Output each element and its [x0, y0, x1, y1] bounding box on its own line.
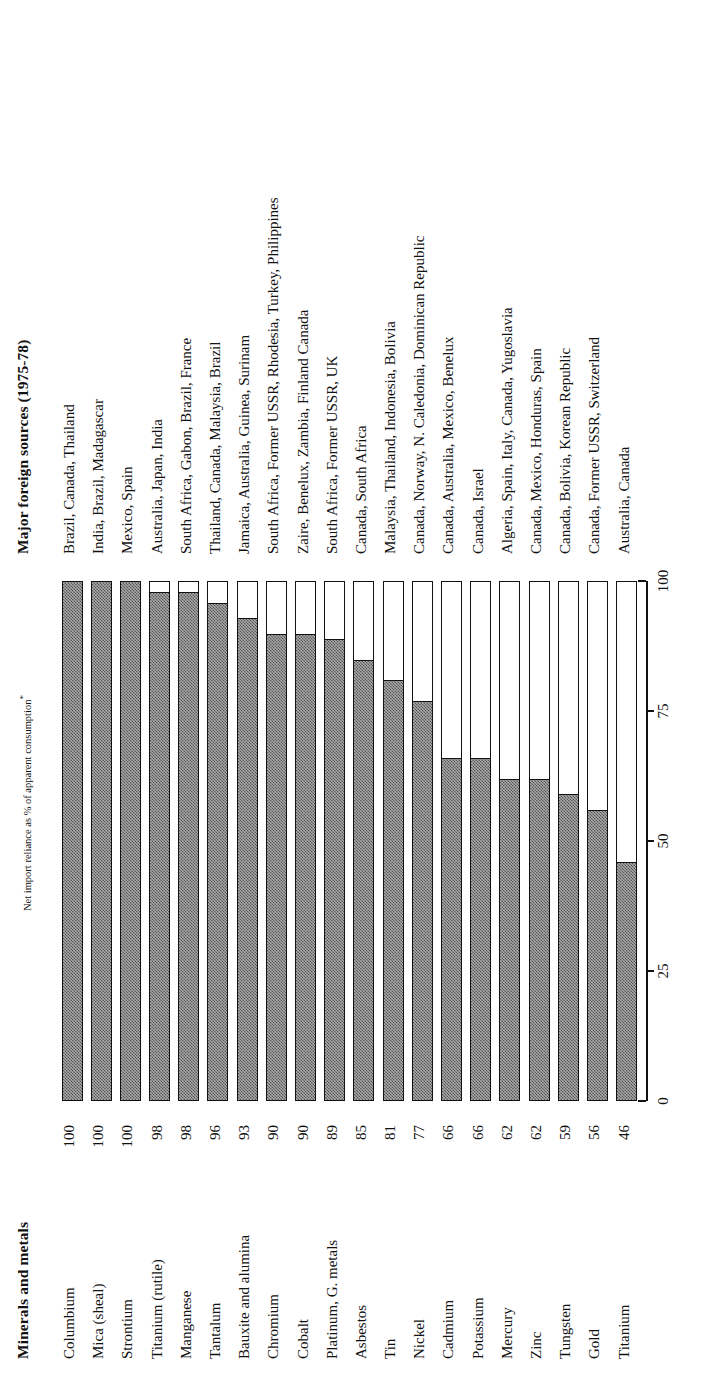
bar-fill	[121, 582, 140, 1100]
bar-track	[383, 581, 404, 1101]
x-axis: 0255075100	[646, 581, 680, 1101]
reliance-value: 90	[264, 1125, 283, 1169]
bar-fill	[354, 660, 373, 1100]
axis-title-text: Net import reliance as % of apparent con…	[22, 700, 33, 911]
x-axis-tick-label: 100	[655, 570, 672, 593]
mineral-name: Titanium	[615, 1169, 634, 1359]
x-axis-end-cap	[638, 580, 646, 582]
axis-title-footnote-marker: *	[18, 695, 28, 700]
chart-row: Potassium66Canada, Israel	[467, 19, 496, 1359]
chart-row: Tungsten59Canada, Bolivia, Korean Republ…	[554, 19, 583, 1359]
mineral-name: Bauxite and alumina	[235, 1169, 254, 1359]
bar-fill	[296, 634, 315, 1100]
chart-rows: Columbium100Brazil, Canada, ThailandMica…	[58, 19, 642, 1359]
bar-fill	[500, 779, 519, 1100]
chart-row: Nickel77Canada, Norway, N. Caledonia, Do…	[408, 19, 437, 1359]
mineral-name: Tungsten	[556, 1169, 575, 1359]
reliance-value: 90	[294, 1125, 313, 1169]
chart-row: Zinc62Canada, Mexico, Honduras, Spain	[525, 19, 554, 1359]
bar-track	[441, 581, 462, 1101]
bar-fill	[179, 592, 198, 1100]
bar-track	[558, 581, 579, 1101]
foreign-sources: Canada, Australia, Mexico, Benelux	[439, 337, 458, 554]
import-reliance-chart: Minerals and metals Net import reliance …	[0, 0, 711, 1381]
bar-track	[324, 581, 345, 1101]
bar-fill	[92, 582, 111, 1100]
foreign-sources: Australia, Japan, India	[148, 419, 167, 554]
mineral-name: Chromium	[264, 1169, 283, 1359]
chart-row: Bauxite and alumina93Jamaica, Australia,…	[233, 19, 262, 1359]
bar-fill	[267, 634, 286, 1100]
mineral-name: Cobalt	[294, 1169, 313, 1359]
foreign-sources: Australia, Canada	[615, 447, 634, 554]
reliance-value: 59	[556, 1125, 575, 1169]
reliance-value: 93	[235, 1125, 254, 1169]
mineral-name: Nickel	[410, 1169, 429, 1359]
bar-track	[207, 581, 228, 1101]
bar-fill	[471, 758, 490, 1100]
foreign-sources: Malaysia, Thailand, Indonesia, Bolivia	[381, 321, 400, 554]
reliance-value: 85	[352, 1125, 371, 1169]
reliance-value: 100	[118, 1125, 137, 1169]
foreign-sources: South Africa, Former USSR, Rhodesia, Tur…	[264, 197, 283, 554]
bar-track	[616, 581, 637, 1101]
bar-track	[120, 581, 141, 1101]
foreign-sources: Canada, Israel	[469, 468, 488, 554]
reliance-value: 56	[585, 1125, 604, 1169]
foreign-sources: South Africa, Gabon, Brazil, France	[177, 338, 196, 554]
chart-row: Tantalum96Thailand, Canada, Malaysia, Br…	[204, 19, 233, 1359]
chart-row: Titanium (rutile)98Australia, Japan, Ind…	[146, 19, 175, 1359]
bar-track	[353, 581, 374, 1101]
foreign-sources: South Africa, Former USSR, UK	[323, 356, 342, 554]
reliance-value: 62	[527, 1125, 546, 1169]
foreign-sources: Algeria, Spain, Italy, Canada, Yugoslavi…	[498, 307, 517, 554]
bar-track	[149, 581, 170, 1101]
bar-track	[412, 581, 433, 1101]
mineral-name: Manganese	[177, 1169, 196, 1359]
chart-row: Platinum, G. metals89South Africa, Forme…	[321, 19, 350, 1359]
bar-fill	[442, 758, 461, 1100]
bar-track	[266, 581, 287, 1101]
bar-track	[587, 581, 608, 1101]
bar-fill	[588, 810, 607, 1100]
x-axis-tick	[646, 970, 654, 972]
bar-fill	[530, 779, 549, 1100]
bar-fill	[238, 618, 257, 1100]
chart-row: Chromium90South Africa, Former USSR, Rho…	[262, 19, 291, 1359]
chart-row: Gold56Canada, Former USSR, Switzerland	[583, 19, 612, 1359]
chart-row: Strontium100Mexico, Spain	[116, 19, 145, 1359]
chart-row: Asbestos85Canada, South Africa	[350, 19, 379, 1359]
bar-track	[91, 581, 112, 1101]
mineral-name: Zinc	[527, 1169, 546, 1359]
reliance-value: 77	[410, 1125, 429, 1169]
foreign-sources: Zaire, Benelux, Zambia, Finland Canada	[294, 309, 313, 554]
foreign-sources: India, Brazil, Madagascar	[89, 399, 108, 554]
foreign-sources: Canada, Former USSR, Switzerland	[585, 337, 604, 554]
mineral-name: Potassium	[469, 1169, 488, 1359]
bar-track	[470, 581, 491, 1101]
mineral-name: Tin	[381, 1169, 400, 1359]
bar-track	[237, 581, 258, 1101]
x-axis-tick	[646, 840, 654, 842]
reliance-value: 46	[615, 1125, 634, 1169]
mineral-name: Gold	[585, 1169, 604, 1359]
mineral-name: Cadmium	[439, 1169, 458, 1359]
column-headers: Minerals and metals Net import reliance …	[14, 19, 44, 1359]
reliance-value: 66	[439, 1125, 458, 1169]
axis-title: Net import reliance as % of apparent con…	[18, 695, 33, 911]
x-axis-tick-label: 75	[655, 704, 672, 719]
mineral-name: Asbestos	[352, 1169, 371, 1359]
bar-fill	[617, 862, 636, 1100]
bar-track	[62, 581, 83, 1101]
foreign-sources: Canada, Mexico, Honduras, Spain	[527, 348, 546, 554]
x-axis-tick-label: 50	[655, 834, 672, 849]
mineral-name: Columbium	[60, 1169, 79, 1359]
foreign-sources: Mexico, Spain	[118, 467, 137, 555]
chart-row: Manganese98South Africa, Gabon, Brazil, …	[175, 19, 204, 1359]
foreign-sources: Canada, Norway, N. Caledonia, Dominican …	[410, 235, 429, 554]
reliance-value: 89	[323, 1125, 342, 1169]
chart-row: Columbium100Brazil, Canada, Thailand	[58, 19, 87, 1359]
bar-fill	[208, 603, 227, 1100]
reliance-value: 98	[177, 1125, 196, 1169]
reliance-value: 100	[60, 1125, 79, 1169]
